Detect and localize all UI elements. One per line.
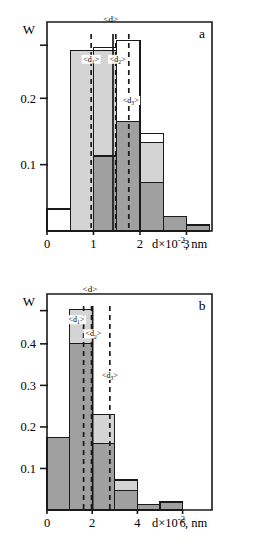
y-tick-label-0: 0.1 xyxy=(20,158,36,172)
mean-label-tail-d1: > xyxy=(95,55,100,64)
mean-label-main-d3: <d xyxy=(102,371,111,380)
bar-dark-gray-5 xyxy=(160,502,183,510)
mean-label-d3: <d3> xyxy=(123,96,139,106)
mean-label-main-d: <d> xyxy=(83,284,98,294)
mean-label-main-d1: <d xyxy=(83,55,92,64)
bar-dark-gray-1 xyxy=(70,344,93,510)
panel-a: 0.10.20123Wad×10-2, nm<d1><d2><d3><d> xyxy=(0,0,256,272)
mean-label-main-d3: <d xyxy=(123,96,132,105)
mean-label-tail-d2: > xyxy=(97,329,102,338)
panel-b-svg: 0.10.20.30.40246Wbd×10-2, nm<d1><d2><d3>… xyxy=(0,272,256,551)
y-tick-label-0: 0.1 xyxy=(20,462,36,476)
mean-label-main-d2: <d xyxy=(110,55,119,64)
x-tick-label-2: 4 xyxy=(134,516,141,530)
x-tick-label-0: 0 xyxy=(44,237,50,251)
mean-label-d: <d> xyxy=(103,14,118,24)
y-tick-label-1: 0.2 xyxy=(20,92,36,106)
x-tick-label-0: 0 xyxy=(44,516,50,530)
mean-label-tail-d2: > xyxy=(121,55,126,64)
mean-label-d1: <d1> xyxy=(83,55,99,65)
y-tick-label-1: 0.2 xyxy=(20,420,36,434)
y-tick-label-3: 0.4 xyxy=(20,337,36,351)
mean-label-d1: <d1> xyxy=(68,315,84,325)
x-axis-title-sup: -2 xyxy=(178,514,185,524)
x-axis-title-tail: , nm xyxy=(185,516,208,530)
x-tick-label-1: 2 xyxy=(89,516,95,530)
x-tick-label-2: 2 xyxy=(137,237,143,251)
bar-light-gray-1 xyxy=(70,51,93,231)
bar-dark-gray-0 xyxy=(47,437,70,510)
bar-dark-gray-5 xyxy=(163,216,186,231)
bar-dark-gray-6 xyxy=(186,225,209,231)
panel-b: 0.10.20.30.40246Wbd×10-2, nm<d1><d2><d3>… xyxy=(0,272,256,551)
y-tick-label-2: 0.3 xyxy=(20,379,36,393)
y-axis-caption: W xyxy=(23,22,36,37)
panel-a-svg: 0.10.20123Wad×10-2, nm<d1><d2><d3><d> xyxy=(0,0,256,272)
panel-letter-b: b xyxy=(199,298,206,313)
bar-dark-gray-2 xyxy=(92,444,115,510)
mean-label-main-d1: <d xyxy=(68,315,77,324)
figure-root: 0.10.20123Wad×10-2, nm<d1><d2><d3><d> 0.… xyxy=(0,0,256,551)
mean-label-d3: <d3> xyxy=(102,371,118,381)
y-axis-caption: W xyxy=(23,294,36,309)
mean-label-d: <d> xyxy=(83,284,98,294)
mean-label-tail-d1: > xyxy=(80,315,85,324)
x-axis-title-main: d×10 xyxy=(152,516,178,530)
mean-label-tail-d3: > xyxy=(134,96,139,105)
bar-white-outline-0 xyxy=(47,209,70,231)
mean-label-main-d: <d> xyxy=(103,14,118,24)
mean-label-tail-d3: > xyxy=(113,371,118,380)
x-axis-title-tail: , nm xyxy=(185,237,208,251)
panel-letter-a: a xyxy=(199,26,205,41)
x-axis-title-sup: -2 xyxy=(178,235,185,245)
x-axis-title-main: d×10 xyxy=(152,237,178,251)
bar-dark-gray-3 xyxy=(115,490,138,510)
x-axis-title: d×10-2, nm xyxy=(152,235,207,251)
x-tick-label-1: 1 xyxy=(90,237,96,251)
bar-dark-gray-4 xyxy=(137,505,160,510)
bar-dark-gray-4 xyxy=(140,183,163,231)
mean-label-d2: <d2> xyxy=(85,329,101,339)
mean-label-main-d2: <d xyxy=(85,329,94,338)
mean-label-d2: <d2> xyxy=(110,55,126,65)
